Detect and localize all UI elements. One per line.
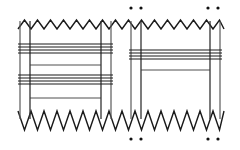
diagram-canvas <box>0 0 240 150</box>
registration-dot <box>216 6 219 9</box>
panel-right <box>129 21 222 119</box>
registration-dot <box>139 6 142 9</box>
torn-edge-top <box>18 20 224 29</box>
registration-dots-top <box>129 6 219 9</box>
registration-dots-bottom <box>129 137 219 140</box>
registration-dot <box>216 137 219 140</box>
registration-dot <box>129 6 132 9</box>
torn-edge-bottom <box>18 111 224 130</box>
registration-dot <box>206 6 209 9</box>
figure-root: Two rectangular panels with sawtooth (zi… <box>0 0 240 150</box>
registration-dot <box>139 137 142 140</box>
panel-left <box>18 21 113 119</box>
registration-dot <box>129 137 132 140</box>
registration-dot <box>206 137 209 140</box>
